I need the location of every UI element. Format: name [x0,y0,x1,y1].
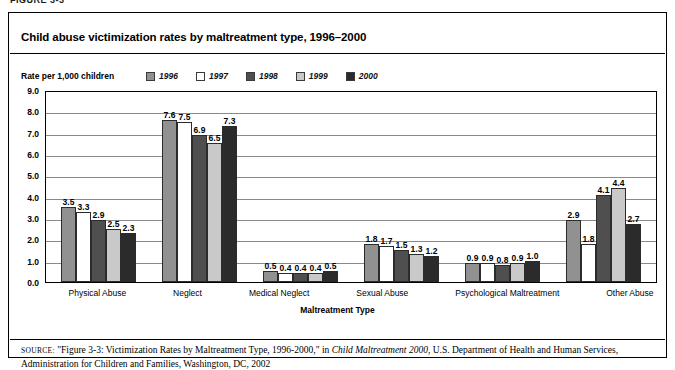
bar-value-label: 2.9 [93,210,105,220]
x-axis-title: Maltreatment Type [9,305,666,315]
bar-value-label: 4.1 [598,185,610,195]
legend-swatch-icon [146,72,155,81]
y-axis-tick-label: 5.0 [27,171,39,181]
bar: 0.5 [323,271,338,282]
bar: 0.9 [465,263,480,282]
source-label: SOURCE: [21,346,55,355]
bar-group: 1.81.71.51.31.2 [364,92,439,282]
bar: 4.4 [611,188,626,282]
x-axis-category-label: Other Abuse [606,288,653,302]
legend-swatch-icon [196,72,205,81]
y-axis-tick-label: 9.0 [27,86,39,96]
legend-label: 1999 [309,71,328,81]
bar: 7.5 [177,122,192,282]
bar: 1.8 [581,244,596,282]
bar: 3.5 [61,207,76,282]
x-axis-category-label: Sexual Abuse [356,288,408,302]
bar: 2.9 [91,220,106,282]
bar-value-label: 6.5 [209,133,221,143]
x-axis-categories: Physical AbuseNeglectMedical NeglectSexu… [45,288,675,302]
bar-value-label: 2.9 [568,210,580,220]
bar-group: 0.90.90.80.91.0 [465,92,540,282]
plot-canvas: 3.53.32.92.52.37.67.56.96.57.30.50.40.40… [45,91,657,283]
bar: 6.5 [207,143,222,282]
bar: 0.4 [278,273,293,282]
y-axis-tick-label: 2.0 [27,235,39,245]
bar: 0.8 [495,265,510,282]
legend-label: 1997 [209,71,228,81]
legend-label: 2000 [359,71,378,81]
bar-value-label: 7.5 [179,112,191,122]
bar-value-label: 0.5 [325,261,337,271]
bar-value-label: 1.2 [426,246,438,256]
bar: 0.4 [308,273,323,282]
bar: 1.2 [424,256,439,282]
bar: 0.9 [510,263,525,282]
bar: 1.8 [364,244,379,282]
bar-value-label: 7.6 [164,110,176,120]
plot-area: 9.08.07.06.05.04.03.02.01.00.0 3.53.32.9… [17,91,657,283]
x-axis-category-label: Psychological Maltreatment [455,288,559,302]
legend-label: 1998 [259,71,278,81]
bar: 7.6 [162,120,177,282]
bar: 6.9 [192,135,207,282]
x-axis-category-label: Neglect [173,288,202,302]
bar-value-label: 2.5 [108,219,120,229]
bar: 7.3 [222,126,237,282]
bar-value-label: 1.3 [411,244,423,254]
bar-value-label: 3.5 [63,197,75,207]
y-axis-tick-label: 0.0 [27,278,39,288]
y-axis-tick-label: 4.0 [27,193,39,203]
figure-caption: FIGURE 3-3 [10,0,65,5]
bar-group: 0.50.40.40.40.5 [263,92,338,282]
bar: 0.5 [263,271,278,282]
bar-value-label: 4.4 [613,178,625,188]
bar-value-label: 2.7 [628,214,640,224]
bar: 1.3 [409,254,424,282]
bar-value-label: 3.3 [78,202,90,212]
legend-items: 19961997199819992000 [146,71,378,81]
bar: 2.9 [566,220,581,282]
legend-item-1998: 1998 [246,71,278,81]
bar: 2.7 [626,224,641,282]
x-axis-category-label: Physical Abuse [68,288,126,302]
bar-value-label: 7.3 [224,116,236,126]
bar: 1.7 [379,246,394,282]
bar-value-label: 0.9 [512,253,524,263]
bar: 4.1 [596,195,611,282]
bar-value-label: 0.4 [295,263,307,273]
bar-value-label: 1.5 [396,240,408,250]
y-axis-tick-label: 8.0 [27,107,39,117]
legend-swatch-icon [346,72,355,81]
x-axis-category-label: Medical Neglect [249,288,309,302]
legend: Rate per 1,000 children 1996199719981999… [21,68,656,84]
bar-value-label: 0.4 [280,263,292,273]
bar-value-label: 1.8 [583,234,595,244]
legend-swatch-icon [296,72,305,81]
bar-group: 2.91.84.14.42.7 [566,92,641,282]
bar-value-label: 1.7 [381,236,393,246]
y-axis-tick-label: 7.0 [27,129,39,139]
bar-value-label: 0.9 [482,253,494,263]
bar: 2.3 [121,233,136,282]
bar-value-label: 0.5 [265,261,277,271]
source-text-before: "Figure 3-3: Victimization Rates by Malt… [55,345,332,355]
y-axis: 9.08.07.06.05.04.03.02.01.00.0 [17,91,43,283]
bar-group: 3.53.32.92.52.3 [61,92,136,282]
bar: 0.4 [293,273,308,282]
y-axis-tick-label: 6.0 [27,150,39,160]
bar-value-label: 6.9 [194,125,206,135]
legend-item-1999: 1999 [296,71,328,81]
bar-value-label: 0.8 [497,255,509,265]
bar: 0.9 [480,263,495,282]
chart-frame: Child abuse victimization rates by maltr… [8,12,667,358]
legend-item-1997: 1997 [196,71,228,81]
bar: 3.3 [76,212,91,282]
bar-value-label: 1.0 [527,251,539,261]
rate-axis-note: Rate per 1,000 children [21,71,114,81]
bar-value-label: 0.4 [310,263,322,273]
bar: 1.0 [525,261,540,282]
chart-title: Child abuse victimization rates by maltr… [21,31,366,43]
bar: 1.5 [394,250,409,282]
bar-value-label: 1.8 [366,234,378,244]
